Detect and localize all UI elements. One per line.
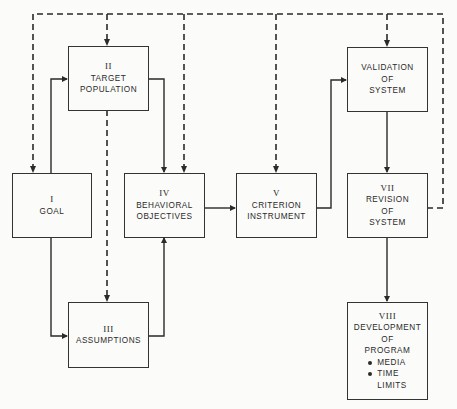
bullet-item-media: MEDIA [368, 357, 406, 369]
node-revision-of-system: VII REVISION OF SYSTEM [347, 173, 428, 238]
node-number: II [105, 61, 112, 73]
node-label: OF [381, 74, 393, 86]
node-label: VALIDATION [361, 62, 413, 74]
arrow-target-to-objectives [148, 79, 164, 172]
node-label: ASSUMPTIONS [76, 335, 141, 347]
node-number: VIII [379, 311, 397, 323]
node-label: INSTRUMENT [247, 211, 306, 223]
node-label: POPULATION [80, 84, 137, 96]
node-assumptions: III ASSUMPTIONS [68, 302, 149, 368]
node-label: CRITERION [252, 200, 302, 212]
node-target-population: II TARGET POPULATION [68, 46, 149, 111]
node-number: VII [381, 183, 395, 195]
bullet-item-time: TIME [368, 368, 406, 380]
node-number: I [50, 194, 54, 206]
node-criterion-instrument: V CRITERION INSTRUMENT [236, 173, 317, 238]
node-validation-of-system: VALIDATION OF SYSTEM [347, 47, 428, 112]
node-goal: I GOAL [12, 173, 92, 238]
node-label: TARGET [91, 73, 127, 85]
node-label: SYSTEM [369, 217, 406, 229]
node-development-of-program: VIII DEVELOPMENT OF PROGRAM MEDIA TIME L… [347, 302, 428, 400]
node-label: OF [381, 334, 393, 346]
node-label: PROGRAM [365, 345, 411, 357]
bullet-continuation: LIMITS [377, 381, 406, 390]
node-number: V [273, 188, 280, 200]
node-label: REVISION [366, 194, 409, 206]
node-label: BEHAVIORAL [136, 200, 193, 212]
arrow-criterion-to-validation [316, 80, 346, 208]
arrow-goal-to-target [51, 79, 67, 173]
node-label: DEVELOPMENT [354, 322, 421, 334]
bullet-list: MEDIA TIME LIMITS [368, 357, 406, 392]
node-label: GOAL [40, 206, 65, 218]
arrow-assumptions-to-objectives [148, 238, 164, 336]
arrow-goal-to-assumptions [51, 237, 67, 336]
node-label: SYSTEM [369, 85, 406, 97]
node-number: IV [159, 188, 170, 200]
node-label: OBJECTIVES [137, 211, 193, 223]
node-label: OF [381, 206, 393, 218]
node-number: III [103, 324, 114, 336]
node-behavioral-objectives: IV BEHAVIORAL OBJECTIVES [124, 173, 205, 238]
bullet-item-limits-cont: LIMITS [368, 380, 406, 392]
